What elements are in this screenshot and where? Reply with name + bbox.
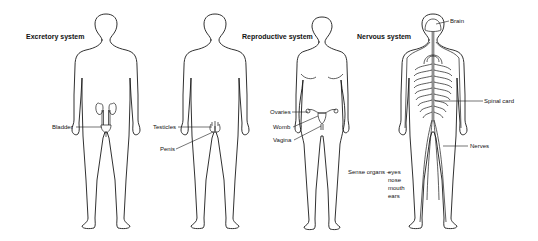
reproductive-male-figure [181,14,249,229]
fallopian-tubes [308,109,336,113]
sense-organ-ears: ears [388,193,400,199]
label-vagina: Vagina [273,137,292,143]
label-ovaries: Ovaries [270,109,291,115]
label-nerves: Nerves [470,143,489,149]
label-penis: Penis [160,146,175,152]
reproductive-female-figure [295,17,349,230]
nervous-figure [399,14,467,229]
label-spinal-cord: Spinal card [484,98,514,104]
excretory-figure [72,14,140,229]
panel-title-excretory: Excretory system [26,33,84,41]
label-testicles: Testicles [153,124,176,130]
brain-leader [436,21,449,24]
sense-organ-nose: nose [388,177,402,183]
rib-nerves [414,64,452,118]
womb-organ [318,113,326,124]
label-womb: Womb [273,124,291,130]
womb-leader [293,116,318,127]
ovary-right [334,109,338,113]
anatomy-diagram: Excretory system Reproductive system Ner… [0,0,538,241]
label-bladder: Bladder [52,124,73,130]
label-brain: Brain [450,18,464,24]
vagina-organ [321,124,323,130]
brain-organ [425,19,441,32]
sense-organ-mouth: mouth [388,185,405,191]
panel-title-nervous: Nervous system [357,33,411,41]
sense-organ-eyes: eyes [388,169,401,175]
spinal-cord [432,32,434,122]
sense-organs-heading: Sense organs – [348,169,391,175]
panel-title-reproductive: Reproductive system [242,33,313,41]
penis-leader [176,132,213,149]
ovary-left [306,109,310,113]
